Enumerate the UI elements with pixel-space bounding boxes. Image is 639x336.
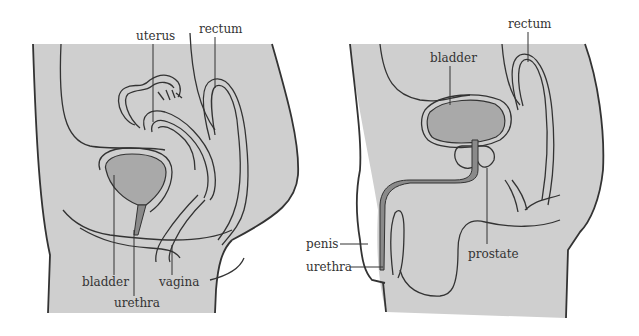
label-uterus: uterus: [136, 29, 175, 43]
male-bladder: [427, 100, 505, 143]
label-female-rectum: rectum: [199, 22, 243, 36]
label-female-bladder: bladder: [82, 275, 129, 289]
female-pelvis-diagram: [33, 33, 298, 313]
label-prostate: prostate: [468, 247, 519, 261]
anatomy-diagram: uterus rectum bladder urethra vagina: [0, 0, 639, 336]
label-male-urethra: urethra: [306, 260, 352, 274]
label-male-bladder: bladder: [430, 51, 477, 65]
label-female-urethra: urethra: [114, 296, 160, 310]
male-body-silhouette: [350, 44, 603, 318]
male-pelvis-diagram: [350, 44, 603, 318]
label-vagina: vagina: [158, 275, 199, 289]
label-male-rectum: rectum: [508, 17, 552, 31]
label-penis: penis: [306, 237, 339, 251]
